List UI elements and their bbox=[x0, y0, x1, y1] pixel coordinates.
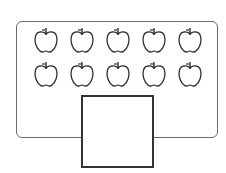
apple-icon bbox=[67, 25, 97, 55]
answer-box[interactable] bbox=[81, 95, 154, 168]
apple-icon bbox=[103, 25, 133, 55]
apple-icon bbox=[175, 59, 205, 89]
apple-icon bbox=[175, 25, 205, 55]
apple-icon bbox=[139, 59, 169, 89]
apple-icon bbox=[31, 59, 61, 89]
apple-icon bbox=[67, 59, 97, 89]
apple-icon bbox=[103, 59, 133, 89]
apple-icon bbox=[31, 25, 61, 55]
apple-icon bbox=[139, 25, 169, 55]
